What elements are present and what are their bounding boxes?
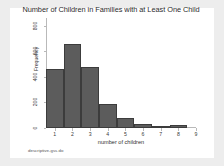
bar-5: [117, 118, 135, 128]
x-tick-label: 1: [51, 131, 59, 137]
bar-2: [64, 44, 82, 128]
bar-4: [99, 104, 117, 128]
y-tick-mark: [44, 128, 47, 129]
y-tick-label: 0: [32, 121, 38, 135]
bar-1: [46, 69, 64, 128]
x-tick-label: 4: [104, 131, 112, 137]
x-tick-label: 2: [68, 131, 76, 137]
y-tick-label: 600: [32, 44, 38, 58]
figure-caption: descriptive-gss.do: [28, 148, 63, 153]
bar-3: [81, 67, 99, 128]
chart-title: Number of Children in Families with at L…: [18, 5, 204, 14]
y-tick-label: 200: [32, 95, 38, 109]
x-tick-label: 7: [157, 131, 165, 137]
y-tick-label: 400: [32, 70, 38, 84]
chart-figure: Number of Children in Families with at L…: [0, 0, 224, 166]
x-tick-label: 9: [192, 131, 200, 137]
x-axis-title: number of children: [46, 139, 196, 145]
x-tick-label: 8: [174, 131, 182, 137]
x-tick-label: 3: [86, 131, 94, 137]
y-tick-label: 800: [32, 19, 38, 33]
x-tick-label: 6: [139, 131, 147, 137]
x-tick-label: 5: [121, 131, 129, 137]
plot-area: [46, 18, 196, 128]
